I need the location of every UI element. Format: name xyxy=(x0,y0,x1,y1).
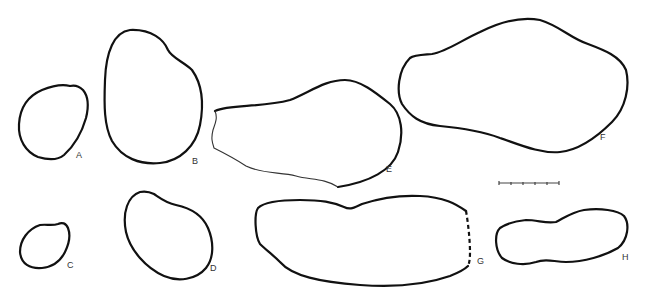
label-d: D xyxy=(210,263,217,273)
outline-a: A xyxy=(19,85,88,160)
outline-g: G xyxy=(256,196,484,286)
label-h: H xyxy=(622,252,629,262)
label-f: F xyxy=(600,132,606,142)
label-c: C xyxy=(67,260,74,270)
label-b: B xyxy=(192,156,198,166)
outline-c: C xyxy=(20,223,74,270)
label-g: G xyxy=(477,256,484,266)
label-a: A xyxy=(76,150,82,160)
figure-canvas: A B E F C D G H xyxy=(0,0,647,300)
outline-b: B xyxy=(105,30,202,166)
label-e: E xyxy=(386,164,392,174)
outline-d: D xyxy=(125,192,217,280)
outline-f: F xyxy=(399,19,628,153)
scale-bar xyxy=(499,181,559,185)
outline-e: E xyxy=(212,80,401,187)
outline-h: H xyxy=(496,209,628,264)
